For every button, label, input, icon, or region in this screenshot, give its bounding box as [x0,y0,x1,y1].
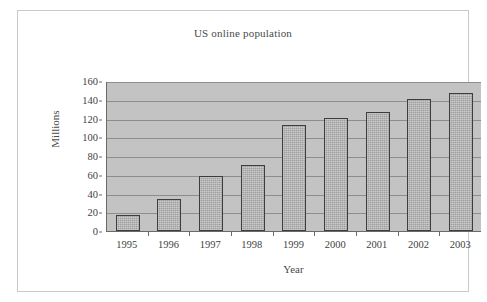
y-axis-tick-labels: 020406080100120140160 [70,82,102,232]
y-axis-title: Millions [49,94,61,164]
bar[interactable] [157,199,181,231]
y-axis-tick-mark [99,82,102,83]
x-axis-tick-mark [273,232,274,236]
bar[interactable] [116,215,140,231]
x-axis-tick-mark [439,232,440,236]
bar[interactable] [366,112,390,231]
y-axis-tick-mark [99,119,102,120]
y-axis-tick-label: 100 [82,133,98,143]
chart-figure: US online population Millions 0204060801… [0,0,487,302]
bar[interactable] [282,125,306,231]
y-axis-tick-mark [99,232,102,233]
y-axis-tick-label: 80 [88,152,99,162]
x-axis-tick-label: 2001 [366,239,387,250]
x-axis-tick-labels: 199519961997199819992000200120022003 [106,239,481,255]
bar-series [107,82,481,231]
chart-title: US online population [18,27,468,39]
y-axis-tick-label: 160 [82,77,98,87]
x-axis-tick-label: 1999 [283,239,304,250]
y-axis-tick-label: 40 [88,190,99,200]
bar-slot [149,82,191,231]
x-axis-tick-mark [231,232,232,236]
y-axis-tick-label: 0 [93,227,98,237]
y-axis-tick-mark [99,157,102,158]
x-axis-tick-label: 1995 [116,239,137,250]
x-axis-title: Year [106,263,481,275]
bar[interactable] [241,165,265,231]
bar-slot [274,82,316,231]
bar-slot [315,82,357,231]
y-axis-tick-mark [99,138,102,139]
bar[interactable] [407,99,431,231]
bar-slot [440,82,482,231]
x-axis-tick-label: 1997 [200,239,221,250]
bar-slot [190,82,232,231]
bar[interactable] [199,176,223,231]
bar-slot [107,82,149,231]
y-axis-tick-label: 140 [82,96,98,106]
y-axis-tick-label: 60 [88,171,99,181]
x-axis-tick-mark [356,232,357,236]
bar[interactable] [324,118,348,231]
chart-frame: US online population Millions 0204060801… [17,10,469,292]
y-axis-tick-mark [99,213,102,214]
y-axis-tick-mark [99,194,102,195]
y-axis-tick-mark [99,175,102,176]
bar-slot [357,82,399,231]
bar-slot [232,82,274,231]
plot-area [106,82,481,232]
x-axis-tick-mark [148,232,149,236]
x-axis-tick-label: 1998 [241,239,262,250]
x-axis-tick-mark [189,232,190,236]
x-axis-tick-label: 2002 [408,239,429,250]
x-axis-tick-label: 2003 [450,239,471,250]
bar[interactable] [449,93,473,231]
y-axis-tick-label: 120 [82,115,98,125]
y-axis-tick-label: 20 [88,208,99,218]
y-axis-tick-mark [99,100,102,101]
x-axis-tick-label: 2000 [325,239,346,250]
x-axis-tick-mark [314,232,315,236]
x-axis-tick-label: 1996 [158,239,179,250]
x-axis-tick-mark [398,232,399,236]
bar-slot [399,82,441,231]
